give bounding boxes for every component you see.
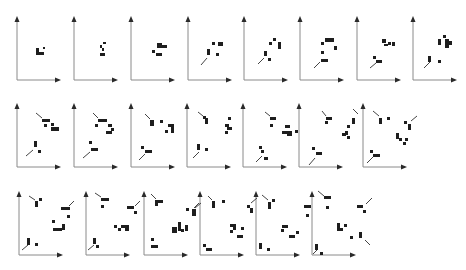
live-cell [295, 130, 298, 133]
live-cell [287, 131, 292, 136]
panel-r1-7 [355, 16, 402, 83]
glider-trail [370, 63, 376, 68]
live-cell [178, 222, 181, 231]
live-cell [376, 60, 382, 63]
live-cell [281, 229, 284, 232]
y-axis-arrow-icon [129, 16, 134, 22]
live-cell [428, 56, 431, 62]
glider-trail [309, 158, 315, 165]
glider-trail [193, 152, 199, 158]
live-cell [370, 150, 373, 153]
live-cell [282, 225, 288, 228]
live-cell [267, 248, 270, 251]
x-axis-arrow-icon [338, 78, 344, 83]
live-cell [39, 52, 44, 55]
x-axis-arrow-icon [451, 78, 457, 83]
live-cell [404, 121, 407, 124]
live-cell [443, 35, 446, 38]
live-cell [151, 245, 158, 248]
live-cell [227, 127, 232, 130]
panel-r2-3 [129, 103, 176, 170]
live-cell [39, 198, 42, 201]
x-axis-arrow-icon [55, 165, 61, 170]
y-axis-arrow-icon [254, 191, 259, 197]
live-cell [392, 42, 395, 46]
live-cell [35, 201, 38, 207]
glider-evolution-diagram [0, 0, 466, 270]
live-cell [52, 220, 55, 223]
y-axis-arrow-icon [17, 191, 22, 197]
live-cell [114, 225, 117, 228]
x-axis-arrow-icon [395, 78, 401, 83]
live-cell [304, 205, 311, 208]
panel-r3-1 [17, 191, 75, 258]
panel-r3-4 [192, 191, 244, 258]
glider-trail [93, 113, 98, 118]
live-cell [150, 120, 154, 126]
glider-trail [151, 194, 156, 199]
y-axis-arrow-icon [242, 16, 247, 22]
live-cell [241, 227, 244, 230]
panel-r1-6 [298, 16, 345, 83]
x-axis-arrow-icon [112, 165, 118, 170]
live-cell [192, 209, 195, 216]
panel-r3-6 [304, 191, 372, 258]
panel-r1-4 [186, 16, 233, 83]
live-cell [379, 118, 382, 124]
y-axis-arrow-icon [310, 191, 315, 197]
live-cell [185, 225, 188, 231]
live-cell [447, 41, 452, 45]
live-cell [100, 53, 105, 56]
live-cell [134, 211, 137, 214]
live-cell [399, 138, 402, 141]
live-cell [181, 229, 184, 232]
glider-trail [26, 150, 33, 156]
glider-trail [367, 157, 373, 163]
x-axis-arrow-icon [57, 253, 63, 258]
live-cell [160, 120, 163, 123]
live-cell [306, 214, 309, 217]
live-cell [334, 46, 337, 50]
live-cell [216, 53, 219, 56]
live-cell [382, 39, 386, 43]
live-cell [228, 117, 231, 120]
x-axis-arrow-icon [112, 78, 118, 83]
live-cell [157, 43, 162, 48]
live-cell [51, 127, 59, 131]
live-cell [186, 208, 189, 211]
live-cell [296, 231, 299, 234]
live-cell [118, 228, 121, 231]
live-cell [250, 208, 253, 213]
y-axis-arrow-icon [72, 103, 77, 109]
y-axis-arrow-icon [15, 103, 20, 109]
live-cell [326, 117, 332, 120]
live-cell [340, 228, 343, 231]
live-cell [225, 131, 228, 134]
live-cell [101, 205, 104, 208]
live-cell [155, 203, 158, 206]
glider-trail [83, 152, 90, 158]
glider-trail [365, 240, 370, 245]
panel-r3-5 [247, 191, 300, 258]
panel-r2-5 [241, 103, 299, 170]
live-cell [373, 56, 376, 59]
live-cell [27, 238, 30, 245]
live-cell [93, 238, 96, 244]
live-cell [321, 51, 324, 54]
panel-r1-3 [129, 16, 176, 83]
x-axis-arrow-icon [294, 253, 300, 258]
live-cell [127, 206, 134, 209]
x-axis-arrow-icon [350, 253, 356, 258]
live-cell [141, 146, 144, 149]
panel-r1-8 [411, 16, 458, 83]
live-cell [233, 227, 236, 230]
live-cell [103, 42, 106, 44]
panel-r2-7 [361, 103, 418, 170]
live-cell [261, 150, 264, 153]
glider-trail [322, 111, 326, 116]
y-axis-arrow-icon [298, 16, 303, 22]
y-axis-arrow-icon [411, 16, 416, 22]
live-cell [259, 243, 262, 249]
live-cell [205, 148, 208, 151]
live-cell [272, 199, 275, 202]
